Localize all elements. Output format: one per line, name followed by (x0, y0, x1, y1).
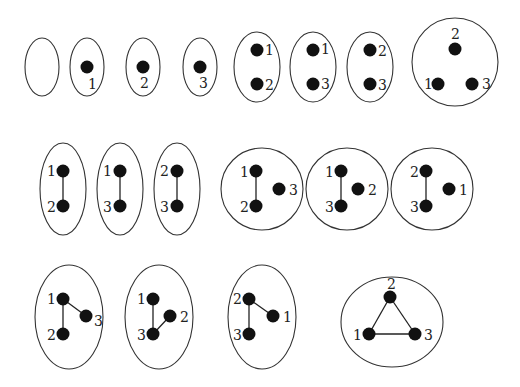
vertex-node (171, 165, 184, 178)
vertex-label: 1 (325, 164, 334, 180)
vertex-node (250, 165, 263, 178)
vertex-label: 3 (103, 199, 112, 215)
vertex-label: 2 (451, 26, 460, 42)
vertex-node (432, 78, 445, 91)
vertex-node (57, 165, 70, 178)
graph-group-g7: 23 (347, 32, 393, 102)
vertex-label: 2 (47, 327, 56, 343)
vertex-node (57, 200, 70, 213)
vertex-node (114, 165, 127, 178)
vertex-node (335, 165, 348, 178)
vertex-label: 3 (233, 327, 242, 343)
vertex-node (114, 200, 127, 213)
vertex-node (409, 328, 422, 341)
vertex-node (251, 44, 264, 57)
vertex-label: 2 (160, 163, 169, 179)
vertex-label: 1 (47, 291, 56, 307)
graph-group-g4: 3 (183, 38, 217, 96)
graph-group-g1 (25, 38, 59, 96)
graph-group-g5: 12 (234, 32, 280, 102)
vertex-node (194, 61, 207, 74)
vertex-label: 2 (387, 276, 396, 292)
vertex-node (420, 165, 433, 178)
vertex-node (57, 328, 70, 341)
vertex-label: 2 (240, 199, 249, 215)
graph-group-g14: 231 (391, 148, 473, 230)
graph-group-g16: 132 (125, 265, 193, 369)
vertex-label: 2 (140, 75, 149, 91)
graph-group-g8: 213 (412, 18, 498, 106)
vertex-node (243, 328, 256, 341)
vertex-label: 2 (265, 77, 274, 93)
vertex-label: 2 (180, 309, 189, 325)
graph-group-g15: 123 (35, 265, 103, 369)
vertex-node (147, 293, 160, 306)
vertex-node (273, 183, 286, 196)
vertex-label: 2 (47, 199, 56, 215)
vertex-node (384, 291, 397, 304)
enclosing-oval (25, 38, 59, 96)
graph-group-g17: 231 (228, 265, 296, 369)
vertex-node (57, 293, 70, 306)
vertex-node (352, 183, 365, 196)
vertex-label: 3 (199, 75, 208, 91)
graph-diagram: 123121323213121323123132231123132231213 (0, 0, 520, 387)
vertex-label: 1 (459, 182, 468, 198)
graph-group-g18: 213 (341, 276, 443, 367)
vertex-label: 3 (424, 327, 433, 343)
vertex-label: 3 (94, 313, 103, 329)
vertex-node (363, 328, 376, 341)
edge (390, 297, 415, 334)
vertex-node (251, 78, 264, 91)
vertex-node (243, 293, 256, 306)
graph-group-g2: 1 (70, 38, 104, 96)
vertex-label: 3 (137, 327, 146, 343)
graph-group-g11: 23 (154, 143, 200, 235)
vertex-node (443, 183, 456, 196)
vertex-label: 1 (283, 309, 292, 325)
vertex-label: 3 (378, 77, 387, 93)
vertex-node (364, 44, 377, 57)
vertex-node (335, 200, 348, 213)
vertex-label: 3 (410, 199, 419, 215)
vertex-node (171, 200, 184, 213)
vertex-node (364, 78, 377, 91)
graph-group-g3: 2 (126, 38, 160, 96)
vertex-node (147, 328, 160, 341)
graph-group-g13: 132 (306, 148, 388, 230)
vertex-node (307, 78, 320, 91)
vertex-label: 1 (88, 76, 97, 92)
vertex-label: 1 (103, 163, 112, 179)
vertex-label: 1 (265, 42, 274, 58)
vertex-label: 1 (424, 76, 433, 92)
vertex-node (449, 43, 462, 56)
vertex-node (164, 310, 177, 323)
vertex-label: 2 (233, 291, 242, 307)
vertex-label: 1 (353, 327, 362, 343)
vertex-label: 1 (47, 163, 56, 179)
graph-group-g10: 13 (97, 143, 143, 235)
enclosing-oval (35, 265, 103, 369)
vertex-node (137, 61, 150, 74)
vertex-label: 1 (321, 41, 330, 57)
vertex-node (267, 310, 280, 323)
vertex-node (81, 61, 94, 74)
vertex-label: 3 (160, 199, 169, 215)
vertex-label: 3 (321, 76, 330, 92)
vertex-label: 3 (289, 182, 298, 198)
vertex-label: 1 (240, 164, 249, 180)
vertex-node (420, 200, 433, 213)
vertex-node (80, 310, 93, 323)
vertex-node (466, 78, 479, 91)
vertex-label: 3 (482, 76, 491, 92)
graph-group-g6: 13 (290, 32, 336, 102)
graph-group-g9: 12 (40, 143, 86, 235)
vertex-label: 2 (410, 164, 419, 180)
vertex-node (250, 200, 263, 213)
graph-group-g12: 123 (221, 148, 303, 230)
vertex-node (307, 44, 320, 57)
vertex-label: 2 (368, 182, 377, 198)
vertex-label: 3 (325, 199, 334, 215)
vertex-label: 1 (137, 291, 146, 307)
vertex-label: 2 (378, 43, 387, 59)
